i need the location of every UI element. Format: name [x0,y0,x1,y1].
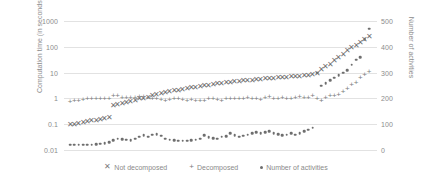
data-point-dot [181,139,184,142]
right-tick-label: 100 [381,121,393,128]
data-point-dot [173,139,176,142]
right-tick-label: 400 [381,43,393,50]
data-point-dot [168,138,171,141]
data-point-dot [298,132,301,135]
data-point-dot [294,133,297,136]
data-point-x: ✕ [240,77,247,84]
data-point-plus: + [328,91,333,98]
data-point-x: ✕ [361,36,368,43]
left-tick-label: 1000 [42,18,58,25]
left-tick-label: 0.01 [44,147,58,154]
data-point-dot [303,130,306,133]
data-point-plus: + [319,96,324,103]
data-point-plus: + [133,94,138,101]
data-point-dot [238,135,241,138]
data-point-dot [268,130,271,133]
data-point-x: ✕ [158,90,165,97]
legend-label: Decomposed [197,164,238,171]
data-point-plus: + [263,94,268,101]
scatter-chart: Computation time (in seconds) Number of … [0,0,432,189]
gridline [64,98,377,99]
data-point-x: ✕ [214,80,221,87]
data-point-x: ✕ [331,57,338,64]
data-point-dot [108,141,111,144]
data-point-dot [285,133,288,136]
legend-plus-icon: + [189,163,194,171]
data-point-dot [203,134,206,137]
data-point-x: ✕ [275,74,282,81]
data-point-plus: + [323,94,328,101]
data-point-plus: + [76,96,81,103]
data-point-dot [190,139,193,142]
right-axis-ticks: 0100200300400500 [381,21,411,150]
data-point-x: ✕ [110,102,117,109]
data-point-dot [281,134,284,137]
legend-cross-icon: ✕ [104,163,111,171]
data-point-dot [125,138,128,141]
data-point-dot [160,134,163,137]
data-point-dot [363,38,366,41]
left-tick-label: 100 [46,43,58,50]
data-point-dot [346,69,349,72]
data-point-plus: + [345,84,350,91]
data-point-x: ✕ [270,74,277,81]
data-point-dot [207,136,210,139]
data-point-x: ✕ [106,114,113,121]
data-point-x: ✕ [93,116,100,123]
data-point-x: ✕ [283,73,290,80]
data-point-plus: + [124,94,129,101]
right-tick-label: 300 [381,69,393,76]
data-point-x: ✕ [218,79,225,86]
data-point-x: ✕ [244,76,251,83]
right-tick-label: 200 [381,95,393,102]
gridline [64,124,377,125]
data-point-plus: + [185,96,190,103]
right-tick-label: 500 [381,18,393,25]
data-point-dot [337,74,340,77]
data-point-x: ✕ [335,54,342,61]
chart-legend: ✕Not decomposed+DecomposedNumber of acti… [0,163,432,171]
data-point-x: ✕ [75,120,82,127]
data-point-plus: + [354,78,359,85]
data-point-dot [155,133,158,136]
data-point-dot [251,132,254,135]
legend-label: Not decomposed [114,164,167,171]
data-point-dot [73,144,76,147]
data-point-plus: + [280,94,285,101]
left-tick-label: 1 [54,95,58,102]
data-point-dot [225,135,228,138]
data-point-dot [259,132,262,135]
data-point-dot [324,82,327,85]
data-point-dot [255,131,258,134]
data-point-dot [142,134,145,137]
data-point-x: ✕ [279,73,286,80]
legend-item-2[interactable]: Number of activities [260,164,327,171]
data-point-dot [199,137,202,140]
data-point-plus: + [306,94,311,101]
data-point-dot [69,144,72,147]
data-point-x: ✕ [153,91,160,98]
data-point-dot [90,144,93,147]
legend-item-0[interactable]: ✕Not decomposed [104,163,167,171]
data-point-x: ✕ [231,78,238,85]
data-point-dot [147,135,150,138]
data-point-dot [151,133,154,136]
data-point-plus: + [128,94,133,101]
data-point-x: ✕ [162,89,169,96]
data-point-plus: + [146,94,151,101]
data-point-dot [264,131,267,134]
data-point-x: ✕ [201,82,208,89]
legend-item-1[interactable]: +Decomposed [189,163,238,171]
data-point-x: ✕ [288,73,295,80]
data-point-x: ✕ [179,85,186,92]
data-point-dot [129,139,132,142]
data-point-x: ✕ [223,79,230,86]
data-point-dot [164,137,167,140]
data-point-x: ✕ [88,117,95,124]
data-point-dot [216,137,219,140]
data-point-x: ✕ [357,39,364,46]
data-point-x: ✕ [257,75,264,82]
data-point-plus: + [336,90,341,97]
data-point-x: ✕ [171,87,178,94]
left-axis-ticks: 0.010.11101001000 [22,21,58,150]
